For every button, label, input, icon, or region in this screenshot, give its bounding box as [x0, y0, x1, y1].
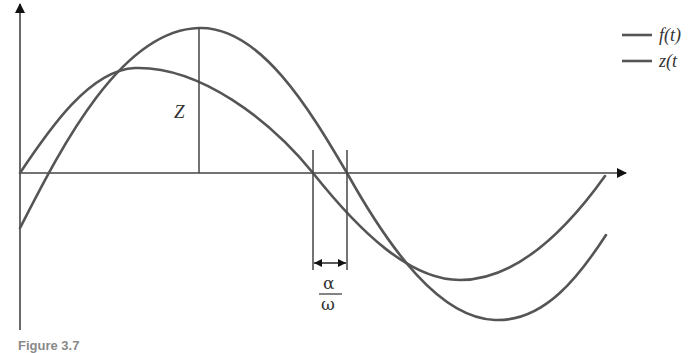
legend-label-z-t: z(t: [658, 51, 678, 72]
phase-shift-marker: α ω: [313, 150, 347, 314]
legend-entry-f-t: f(t): [622, 25, 681, 46]
legend-entry-z-t: z(t: [622, 51, 678, 72]
figure-caption: Figure 3.7: [18, 338, 79, 353]
amplitude-label: Z: [174, 101, 185, 122]
legend-label-f-t: f(t): [659, 25, 681, 46]
amplitude-marker: Z: [174, 28, 199, 173]
legend: f(t) z(t: [622, 25, 681, 72]
phase-numerator: α: [323, 273, 335, 293]
phase-denominator: ω: [321, 294, 335, 314]
